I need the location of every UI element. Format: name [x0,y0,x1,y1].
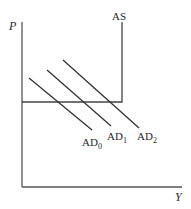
ad1-label: AD1 [107,130,127,145]
ad2-label: AD2 [137,130,157,145]
ad1-curve [47,70,111,126]
x-axis-label: Y [175,190,183,204]
ad0-label: AD0 [82,136,102,151]
y-axis-label: P [8,19,17,33]
ad-as-diagram: P Y AS AD0 AD1 AD2 [0,0,191,209]
ad0-curve [29,78,92,130]
as-label: AS [112,10,126,22]
as-curve [22,22,122,102]
